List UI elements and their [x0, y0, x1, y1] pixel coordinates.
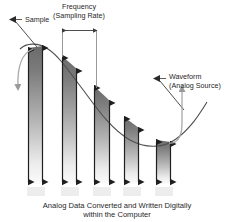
sample-bar-4	[124, 117, 139, 184]
waveform-label-line2: (Analog Source)	[169, 81, 221, 90]
waveform-label-line1: Waveform	[169, 72, 201, 81]
sample-bar-5	[156, 140, 171, 184]
sample-pointer-line	[16, 22, 37, 47]
analog-waveform-curve	[20, 44, 207, 146]
frequency-label-line1: Frequency	[62, 2, 96, 11]
frequency-label-line2: (Sampling Rate)	[53, 11, 105, 20]
sample-bar-1	[28, 46, 43, 184]
sample-bar-3	[94, 86, 110, 184]
sampling-diagram: Sample Frequency (Sampling Rate) Wavefor…	[0, 0, 234, 222]
sample-label: Sample	[25, 15, 49, 24]
caption-line-1: Analog Data Converted and Written Digita…	[43, 201, 192, 210]
digital-data-blocks	[27, 187, 173, 196]
sample-bars	[28, 46, 171, 184]
curved-arrow-icon-waveform	[169, 88, 182, 143]
sample-bar-2	[62, 56, 77, 184]
caption-line-2: within the Computer	[82, 210, 151, 219]
